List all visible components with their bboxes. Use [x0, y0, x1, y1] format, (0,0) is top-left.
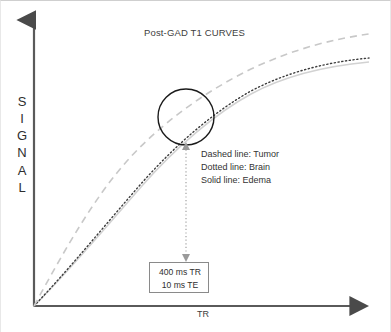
measurement-arrow-head-down — [182, 254, 190, 262]
parameter-annotation-box: 400 ms TR 10 ms TE — [149, 262, 209, 293]
figure-canvas: Post-GAD T1 CURVES S I G N A L TR Dashed… — [0, 0, 391, 332]
chart-title: Post-GAD T1 CURVES — [144, 27, 245, 38]
highlight-circle — [158, 89, 214, 145]
x-axis-label: TR — [197, 309, 209, 320]
parameter-annotation-text: 400 ms TR 10 ms TE — [150, 266, 210, 291]
y-axis-label: S I G N A L — [15, 93, 29, 196]
legend: Dashed line: Tumor Dotted line: Brain So… — [201, 148, 279, 186]
